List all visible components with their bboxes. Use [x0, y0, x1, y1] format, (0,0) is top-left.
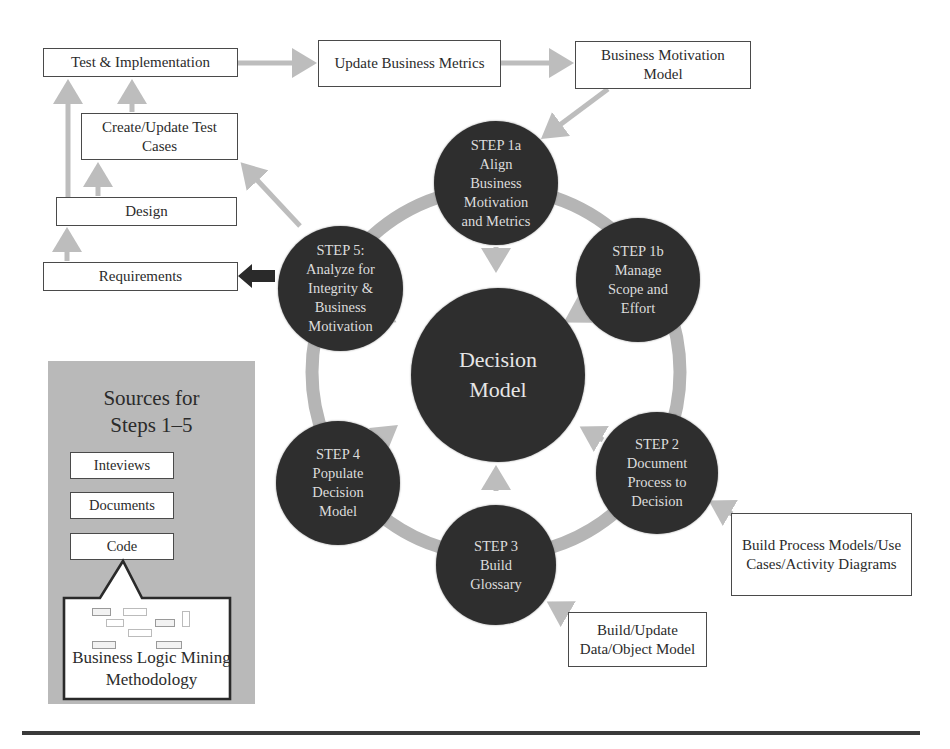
design-box: Design: [56, 197, 237, 226]
step-1a-node: STEP 1a Align Business Motivation and Me…: [434, 121, 558, 245]
update-business-metrics-label: Update Business Metrics: [335, 54, 485, 73]
arrow-step5-to-testcases: [244, 166, 300, 226]
update-business-metrics-box: Update Business Metrics: [318, 40, 501, 87]
arrow-step1b-to-center: [568, 310, 585, 320]
arrow-step5-to-requirements: [238, 264, 275, 288]
test-implementation-label: Test & Implementation: [71, 53, 210, 72]
step-1a-label: STEP 1a Align Business Motivation and Me…: [462, 136, 531, 231]
step-2-label: STEP 2 Document Process to Decision: [627, 435, 687, 511]
step-1b-label: STEP 1b Manage Scope and Effort: [608, 242, 668, 318]
step-2-node: STEP 2 Document Process to Decision: [596, 412, 718, 534]
step-4-label: STEP 4 Populate Decision Model: [312, 445, 364, 521]
design-label: Design: [125, 202, 168, 221]
decision-model-label: Decision Model: [459, 345, 537, 405]
test-implementation-box: Test & Implementation: [43, 48, 238, 77]
arrow-step2-to-center: [584, 429, 603, 440]
requirements-label: Requirements: [99, 267, 182, 286]
step-4-node: STEP 4 Populate Decision Model: [276, 421, 400, 545]
build-process-models-label: Build Process Models/Use Cases/Activity …: [742, 536, 901, 574]
build-process-models-box: Build Process Models/Use Cases/Activity …: [731, 513, 912, 596]
arrow-bmm-to-step1a: [545, 89, 608, 136]
build-update-data-model-box: Build/Update Data/Object Model: [568, 612, 707, 667]
bottom-divider: [22, 731, 920, 735]
create-update-test-cases-label: Create/Update Test Cases: [102, 118, 217, 156]
build-update-data-model-label: Build/Update Data/Object Model: [580, 621, 695, 659]
business-logic-mining-label: Business Logic Mining Methodology: [48, 647, 255, 691]
business-motivation-model-box: Business Motivation Model: [575, 41, 751, 89]
arrow-datamodel-to-step3: [551, 604, 568, 614]
step-1b-node: STEP 1b Manage Scope and Effort: [576, 218, 700, 342]
sources-panel: Sources for Steps 1–5 Inteviews Document…: [48, 361, 255, 704]
step-3-label: STEP 3 Build Glossary: [470, 537, 522, 594]
mining-diagram-thumbnail: [78, 605, 223, 651]
requirements-box: Requirements: [43, 262, 238, 291]
step-5-node: STEP 5: Analyze for Integrity & Business…: [278, 226, 403, 351]
step-5-label: STEP 5: Analyze for Integrity & Business…: [306, 241, 375, 336]
business-motivation-model-label: Business Motivation Model: [601, 46, 725, 84]
arrow-processmodels-to-step2: [713, 503, 732, 514]
create-update-test-cases-box: Create/Update Test Cases: [81, 113, 238, 160]
step-3-node: STEP 3 Build Glossary: [436, 505, 556, 625]
decision-model-node: Decision Model: [411, 288, 585, 462]
